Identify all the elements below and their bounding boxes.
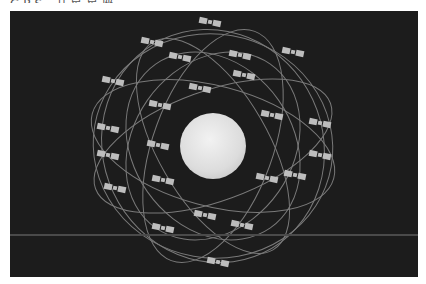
satellite-icon: [152, 223, 175, 233]
caption-text: GPS 卫星星座: [10, 0, 118, 3]
constellation-image: [10, 11, 418, 277]
satellite-icon: [207, 257, 230, 267]
satellite-icon: [261, 110, 284, 120]
satellite-icon: [152, 175, 175, 185]
satellite-icon: [309, 150, 332, 160]
satellite-icon: [141, 37, 164, 47]
satellite-icon: [233, 70, 256, 80]
satellite-icon: [231, 220, 254, 230]
satellite-icon: [149, 100, 172, 110]
satellite-icon: [97, 150, 120, 160]
satellite-icon: [169, 52, 192, 62]
satellite-icon: [102, 76, 125, 86]
satellite-icon: [256, 173, 279, 183]
satellite-icon: [309, 118, 332, 128]
satellite-icon: [284, 170, 307, 180]
satellite-icon: [97, 123, 120, 133]
satellite-icon: [282, 47, 305, 57]
satellite-icon: [104, 183, 127, 193]
satellite-icon: [194, 210, 217, 220]
satellites: [10, 11, 418, 277]
satellite-icon: [189, 83, 212, 93]
satellite-icon: [147, 140, 170, 150]
satellite-icon: [199, 17, 222, 27]
satellite-icon: [229, 50, 252, 60]
